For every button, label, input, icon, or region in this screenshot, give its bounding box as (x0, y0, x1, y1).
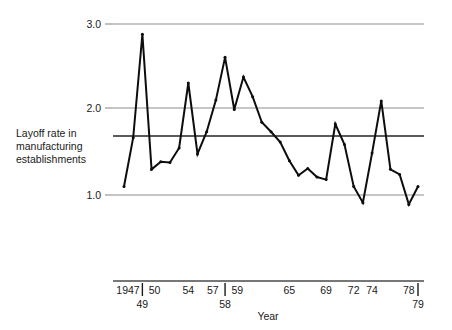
data-point (325, 178, 328, 181)
data-point (297, 174, 300, 177)
data-point (260, 121, 263, 124)
data-point (389, 168, 392, 171)
data-point (380, 99, 383, 102)
x-axis-sublabel-49: 49 (137, 298, 149, 310)
data-point (398, 173, 401, 176)
layoff-rate-line-chart: 3.0 2.0 1.0 Layoff rate in manufacturing… (0, 0, 452, 330)
data-point (306, 167, 309, 170)
y-axis-title-line-3: establishments (16, 153, 86, 165)
y-axis-title-line-1: Layoff rate in (16, 127, 77, 139)
data-point (196, 152, 199, 155)
x-axis-label-1947: 1947 (116, 284, 140, 296)
x-axis-sublabel-58: 58 (219, 298, 231, 310)
data-point (205, 130, 208, 133)
x-axis-label-78: 78 (403, 284, 415, 296)
x-axis-label-65: 65 (284, 284, 296, 296)
y-axis-title-line-2: manufacturing (16, 140, 83, 152)
y-axis-title: Layoff rate in manufacturing establishme… (16, 127, 86, 165)
data-point (224, 56, 227, 59)
data-point (407, 203, 410, 206)
data-point (343, 143, 346, 146)
x-axis-label-72: 72 (348, 284, 360, 296)
data-point (132, 136, 135, 139)
data-point (233, 108, 236, 111)
data-point (334, 123, 337, 126)
data-point (352, 185, 355, 188)
data-point (150, 168, 153, 171)
data-point (417, 185, 420, 188)
data-point (361, 201, 364, 204)
y-tick-label-1-0: 1.0 (86, 189, 101, 201)
data-point (270, 130, 273, 133)
y-tick-label-3-0: 3.0 (86, 18, 101, 30)
x-axis-label-50: 50 (149, 284, 161, 296)
x-axis-label-57: 57 (207, 284, 219, 296)
data-point (187, 82, 190, 85)
data-point (371, 152, 374, 155)
data-point (242, 76, 245, 79)
data-point (251, 95, 254, 98)
x-axis-label-54: 54 (182, 284, 194, 296)
data-point (159, 160, 162, 163)
data-point (141, 33, 144, 36)
x-axis-title: Year (257, 310, 279, 322)
data-point (288, 159, 291, 162)
data-point (168, 161, 171, 164)
x-axis-label-59: 59 (231, 284, 243, 296)
x-axis-label-69: 69 (320, 284, 332, 296)
y-tick-label-2-0: 2.0 (86, 102, 101, 114)
x-axis-label-74: 74 (366, 284, 378, 296)
data-point (178, 146, 181, 149)
data-point (315, 176, 318, 179)
data-point (123, 185, 126, 188)
data-point (279, 140, 282, 143)
x-axis-sublabel-79: 79 (412, 298, 424, 310)
data-point (214, 99, 217, 102)
